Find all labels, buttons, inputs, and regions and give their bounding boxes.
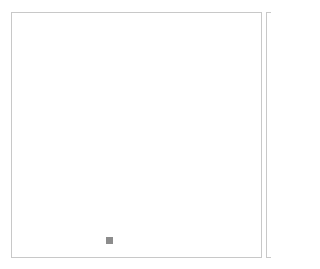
legend-swatch-icon (106, 237, 113, 244)
plot-area (68, 63, 244, 177)
adjacent-panel-frame (266, 12, 271, 258)
legend (106, 237, 116, 244)
